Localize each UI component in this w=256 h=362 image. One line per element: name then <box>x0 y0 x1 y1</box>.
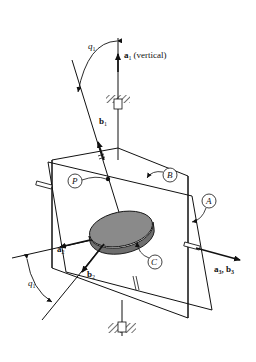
svg-text:A: A <box>205 196 212 206</box>
svg-text:P: P <box>71 176 78 186</box>
label-a3-b3: a3, b3 <box>214 264 234 275</box>
label-b2: b2 <box>87 269 95 280</box>
left-pivot <box>36 181 52 189</box>
callout-P: P <box>68 174 106 188</box>
svg-text:C: C <box>151 257 158 267</box>
frame-ticks <box>133 276 139 290</box>
label-q1-bottom: q1 <box>28 278 36 289</box>
callout-B: B <box>147 168 177 182</box>
label-q1-top: q1 <box>88 41 96 52</box>
gyroscope-diagram: P B A C a1(vertical) q1 b1 a2 b2 q1 a3, … <box>0 0 256 362</box>
label-b1: b1 <box>99 116 107 127</box>
angle-q1-top <box>78 41 117 92</box>
point-P <box>106 177 110 181</box>
bottom-bearing <box>108 300 136 336</box>
label-a1: a1(vertical) <box>124 50 166 61</box>
rotor-disk-C <box>86 206 156 255</box>
axis-b2 <box>42 244 104 320</box>
svg-text:B: B <box>167 170 173 180</box>
top-bearing <box>106 95 130 109</box>
